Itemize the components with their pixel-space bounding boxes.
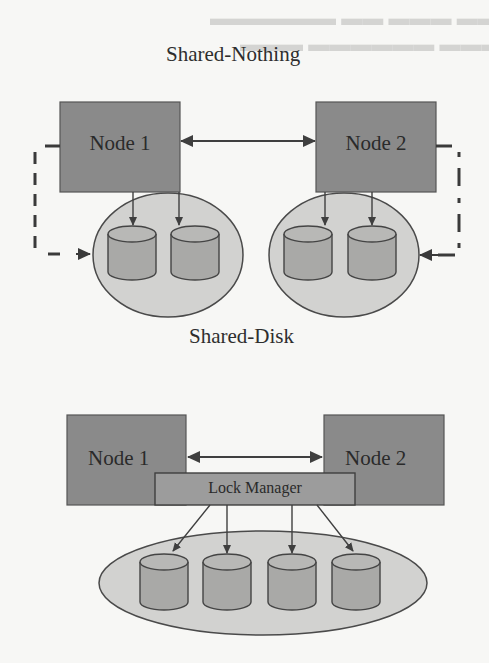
disk-cylinder xyxy=(140,554,188,610)
node-1-label: Node 1 xyxy=(88,446,149,471)
diagram-canvas xyxy=(0,0,489,663)
disk-cylinder xyxy=(268,554,316,610)
disk-cylinder xyxy=(171,226,219,280)
disk-cylinder xyxy=(203,554,251,610)
lock-manager-label: Lock Manager xyxy=(155,479,355,497)
disk-cylinder xyxy=(284,226,332,280)
disk-cylinder xyxy=(332,554,380,610)
disk-cylinder xyxy=(108,226,156,280)
node-2-label: Node 2 xyxy=(316,131,436,156)
node-1-label: Node 1 xyxy=(60,131,180,156)
node-2-label: Node 2 xyxy=(345,446,406,471)
disk-cylinder xyxy=(348,226,396,280)
architecture-figure: ▬▬ ▬▬▬▬ ▬▬▬▬ ▬▬▬ ▬▬ ▬▬▬▬▬▬ ▬▬▬▬▬▬▬▬▬▬ ▬▬… xyxy=(0,0,489,663)
